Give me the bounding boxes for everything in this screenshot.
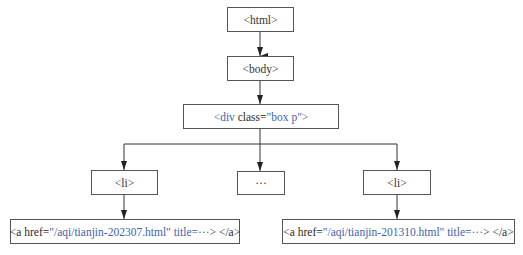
a-left-title: title=··· (171, 226, 210, 238)
div-tag-open: <div (214, 111, 235, 123)
a-right-open: <a href= (283, 226, 322, 238)
node-html-label: <html> (243, 14, 277, 26)
node-html: <html> (227, 7, 294, 32)
a-left-end-tag: </a> (216, 226, 240, 238)
node-li-left-label: <li> (115, 177, 134, 189)
node-li-left: <li> (91, 170, 158, 195)
node-body-label: <body> (243, 63, 279, 75)
arrow-icon (257, 95, 263, 104)
a-right-href: "/aqi/tianjin-201310.html" (323, 226, 445, 238)
node-a-left: <a href="/aqi/tianjin-202307.html" title… (10, 219, 240, 244)
node-li-right: <li> (363, 170, 431, 195)
a-left-href: "/aqi/tianjin-202307.html" (49, 226, 171, 238)
node-div: <div class="box p"> (183, 104, 339, 129)
div-tag-close: > (302, 111, 309, 123)
div-attr-value: "box p" (267, 111, 302, 123)
node-li-right-label: <li> (387, 177, 406, 189)
a-right-end-tag: </a> (490, 226, 514, 238)
node-a-right: <a href="/aqi/tianjin-201310.html" title… (282, 219, 515, 244)
arrow-icon (257, 162, 263, 171)
a-left-open: <a href= (10, 226, 49, 238)
node-body: <body> (227, 56, 294, 81)
arrow-icon (394, 210, 400, 219)
arrow-icon (394, 161, 400, 170)
div-attr-name: class= (235, 111, 267, 123)
node-ellipsis-label: ··· (255, 177, 267, 189)
arrow-icon (121, 161, 127, 170)
node-ellipsis: ··· (237, 171, 285, 195)
arrow-icon (121, 210, 127, 219)
arrow-icon (257, 47, 263, 56)
a-right-title: title=··· (444, 226, 483, 238)
